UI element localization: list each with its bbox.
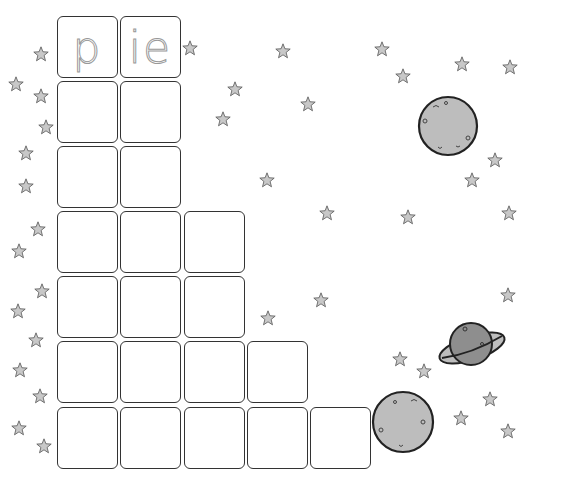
star-icon <box>395 68 411 84</box>
star-icon <box>259 172 275 188</box>
star-icon <box>275 43 291 59</box>
star-icon <box>400 209 416 225</box>
star-icon <box>34 283 50 299</box>
star-icon <box>32 388 48 404</box>
star-icon <box>500 423 516 439</box>
letter-box[interactable] <box>57 341 118 403</box>
letter-box[interactable] <box>57 407 118 469</box>
star-icon <box>12 362 28 378</box>
star-icon <box>11 243 27 259</box>
star-icon <box>501 205 517 221</box>
star-icon <box>28 332 44 348</box>
star-icon <box>227 81 243 97</box>
star-icon <box>33 88 49 104</box>
star-icon <box>500 287 516 303</box>
star-icon <box>18 178 34 194</box>
star-icon <box>33 46 49 62</box>
traced-letter: p <box>58 17 117 77</box>
letter-box[interactable] <box>120 81 181 143</box>
letter-box[interactable] <box>120 341 181 403</box>
letter-box[interactable] <box>57 276 118 338</box>
letter-box[interactable] <box>120 211 181 273</box>
star-icon <box>416 363 432 379</box>
star-icon <box>487 152 503 168</box>
letter-box[interactable] <box>120 407 181 469</box>
star-icon <box>182 40 198 56</box>
star-icon <box>8 76 24 92</box>
letter-box[interactable] <box>247 341 308 403</box>
star-icon <box>38 119 54 135</box>
letter-box[interactable] <box>57 211 118 273</box>
letter-box[interactable]: ie <box>120 16 181 78</box>
star-icon <box>313 292 329 308</box>
star-icon <box>482 391 498 407</box>
star-icon <box>392 351 408 367</box>
star-icon <box>10 303 26 319</box>
letter-box[interactable] <box>120 276 181 338</box>
star-icon <box>215 111 231 127</box>
letter-box[interactable] <box>120 146 181 208</box>
letter-box[interactable] <box>184 407 245 469</box>
star-icon <box>260 310 276 326</box>
letter-box[interactable] <box>247 407 308 469</box>
star-icon <box>36 438 52 454</box>
star-icon <box>11 420 27 436</box>
letter-box[interactable] <box>184 276 245 338</box>
star-icon <box>18 145 34 161</box>
star-icon <box>319 205 335 221</box>
letter-box[interactable]: p <box>57 16 118 78</box>
star-icon <box>502 59 518 75</box>
moon-top-icon <box>416 94 480 158</box>
moon-bottom-icon <box>371 390 435 454</box>
star-icon <box>374 41 390 57</box>
star-icon <box>454 56 470 72</box>
letter-box[interactable] <box>310 407 371 469</box>
star-icon <box>30 221 46 237</box>
star-icon <box>464 172 480 188</box>
star-icon <box>453 410 469 426</box>
letter-box[interactable] <box>184 341 245 403</box>
letter-box[interactable] <box>184 211 245 273</box>
letter-box[interactable] <box>57 81 118 143</box>
traced-letter: ie <box>121 17 180 77</box>
ringed-planet-icon <box>436 316 508 374</box>
letter-box[interactable] <box>57 146 118 208</box>
star-icon <box>300 96 316 112</box>
